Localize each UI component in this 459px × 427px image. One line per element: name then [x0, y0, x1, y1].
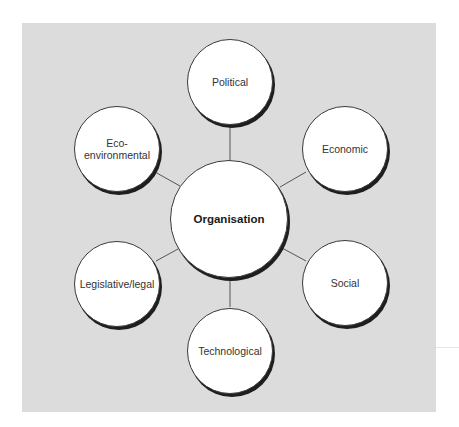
node-label: Organisation [194, 213, 265, 225]
node-label: Economic [322, 143, 368, 155]
node-eco-environmental: Eco- environmental [74, 106, 160, 192]
node-organisation: Organisation [170, 160, 288, 278]
node-label: Social [331, 277, 360, 289]
node-label: Legislative/legal [80, 278, 155, 290]
node-political: Political [187, 39, 273, 125]
node-legislative-legal: Legislative/legal [74, 241, 160, 327]
node-social: Social [302, 240, 388, 326]
connector-legislative-legal [156, 249, 178, 261]
connector-economic [280, 172, 306, 187]
node-technological: Technological [187, 308, 273, 394]
connector-eco-environmental [155, 172, 180, 186]
node-label: Technological [198, 345, 262, 357]
node-label: Eco- environmental [84, 137, 150, 161]
node-economic: Economic [302, 106, 388, 192]
connector-social [282, 248, 306, 261]
node-label: Political [212, 76, 248, 88]
